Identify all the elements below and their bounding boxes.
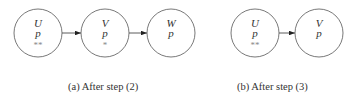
node-mark: **: [34, 40, 44, 50]
caption-a: (a) After step (2): [68, 81, 138, 92]
node-a-W: Wp: [147, 9, 195, 57]
node-prop: p: [101, 27, 108, 39]
node-a-V: Vp*: [81, 9, 129, 57]
node-prop: p: [34, 27, 41, 39]
node-b-U: Up**: [231, 9, 279, 57]
node-prop: p: [251, 27, 258, 39]
node-a-U: Up**: [14, 9, 62, 57]
caption-b: (b) After step (3): [237, 81, 308, 92]
node-prop: p: [167, 27, 174, 39]
node-mark: *: [103, 40, 108, 50]
node-b-V: Vp: [295, 9, 343, 57]
node-mark: **: [251, 40, 261, 50]
node-prop: p: [315, 27, 322, 39]
